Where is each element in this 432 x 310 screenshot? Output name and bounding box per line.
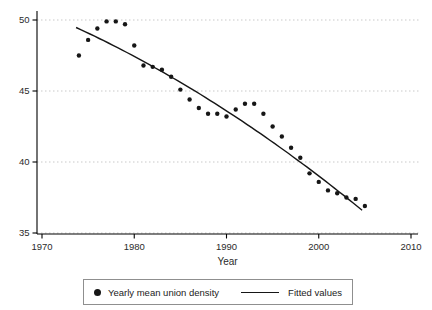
data-point-1985 [178,87,182,91]
data-point-1994 [261,112,265,116]
x-tick-label-1980: 1980 [124,241,145,252]
data-point-1978 [114,19,118,23]
scatter-marker-icon [94,289,101,296]
data-point-1983 [160,68,164,72]
y-tick-label-45: 45 [19,85,30,96]
data-point-2004 [353,197,357,201]
data-point-1998 [298,156,302,160]
data-point-1984 [169,75,173,79]
data-point-1977 [104,19,108,23]
legend-label-scatter: Yearly mean union density [108,287,219,298]
fitted-line-marker-icon [241,292,279,293]
x-tick-label-2000: 2000 [308,241,329,252]
data-point-1976 [95,26,99,30]
data-point-1996 [280,134,284,138]
legend-box: Yearly mean union density Fitted values [83,279,353,305]
data-point-1980 [132,43,136,47]
data-point-1991 [234,107,238,111]
legend-item-fitted: Fitted values [219,287,342,298]
data-point-1987 [197,106,201,110]
data-point-1992 [243,102,247,106]
data-point-2003 [344,195,348,199]
data-point-1988 [206,112,210,116]
data-point-1995 [270,124,274,128]
x-axis-title: Year [217,256,238,267]
data-point-1974 [77,53,81,57]
data-point-1993 [252,102,256,106]
data-point-1986 [187,97,191,101]
x-tick-label-1990: 1990 [216,241,237,252]
y-tick-label-50: 50 [19,14,30,25]
data-point-1981 [141,63,145,67]
data-point-1979 [123,22,127,26]
data-point-2001 [326,188,330,192]
x-tick-label-1970: 1970 [31,241,52,252]
y-tick-label-35: 35 [19,227,30,238]
plot-area: 3540455019701980199020002010Year [0,0,432,310]
legend-item-scatter: Yearly mean union density [94,287,219,298]
x-tick-label-2010: 2010 [400,241,421,252]
legend-label-fitted: Fitted values [288,287,342,298]
data-point-1982 [151,65,155,69]
y-tick-label-40: 40 [19,156,30,167]
data-point-1989 [215,112,219,116]
data-point-1990 [224,114,228,118]
data-point-2005 [363,204,367,208]
union-density-chart-figure: 3540455019701980199020002010Year Yearly … [0,0,432,310]
data-point-2002 [335,191,339,195]
data-point-1999 [307,171,311,175]
data-point-1997 [289,146,293,150]
data-point-2000 [317,180,321,184]
data-point-1975 [86,38,90,42]
